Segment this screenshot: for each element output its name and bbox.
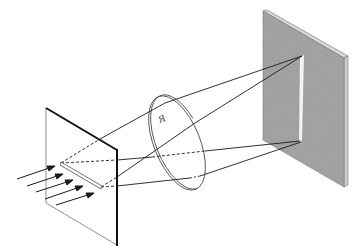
ray-1 [100, 103, 165, 139]
light-arrow [45, 186, 83, 199]
slit [60, 162, 102, 189]
ray-3 [117, 123, 195, 177]
diagram-canvas: R [0, 0, 357, 251]
slit-screen-bottom-edge [46, 203, 117, 245]
arrowhead-icon [65, 180, 73, 185]
projection-screen [263, 10, 348, 187]
light-arrow [56, 193, 94, 205]
lens-label: R [157, 113, 167, 125]
arrowhead-icon [47, 166, 55, 171]
ray-1-hidden [61, 139, 100, 163]
lens-rim-back [137, 88, 217, 198]
ray-2 [117, 157, 152, 160]
ray-lower-to-image-bottom [200, 142, 301, 176]
ray-2-hidden [61, 160, 117, 163]
arrowhead-icon [55, 174, 63, 179]
incident-light [17, 166, 94, 205]
ray-4-hidden [101, 186, 117, 187]
arrowhead-icon [75, 186, 83, 191]
slit-screen-top-edge [46, 108, 117, 150]
optics-diagram: R [0, 0, 357, 251]
ray-3-hidden [101, 177, 117, 187]
projection-screen-texture [263, 11, 344, 187]
arrowhead-icon [86, 193, 94, 198]
projection-screen-side [344, 56, 348, 187]
light-arrow [27, 174, 63, 186]
ray-4-in-lens [190, 176, 200, 178]
lens: R [137, 87, 219, 198]
light-arrow [17, 166, 55, 179]
light-arrow [36, 180, 73, 192]
